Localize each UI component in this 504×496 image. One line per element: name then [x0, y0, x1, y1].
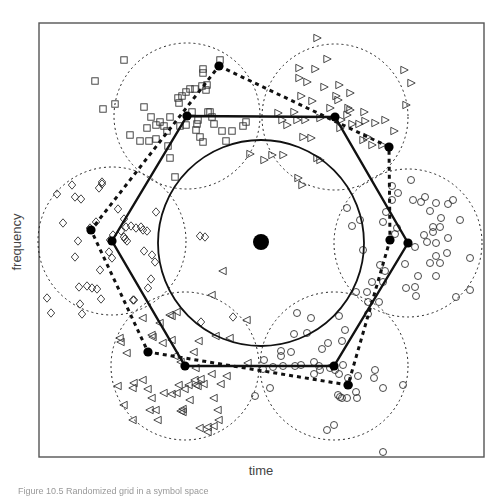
circle-marker [438, 215, 445, 222]
triangle-right-marker [369, 141, 376, 148]
circle-marker [415, 273, 422, 280]
square-marker [148, 114, 154, 120]
triangle-left-marker [217, 380, 224, 387]
triangle-left-marker [175, 381, 182, 388]
triangle-left-marker [173, 308, 180, 315]
circle-marker [288, 349, 295, 356]
diamond-marker [59, 219, 66, 227]
triangle-left-marker [204, 423, 211, 430]
origin-dot [253, 234, 269, 250]
triangle-right-marker [247, 150, 254, 157]
triangle-right-marker [361, 108, 368, 115]
square-marker [223, 138, 229, 144]
triangle-left-marker [214, 406, 221, 413]
triangle-right-marker [269, 151, 276, 158]
circle-marker [402, 261, 409, 268]
circle-marker [433, 240, 440, 247]
perturbed-vertex-dot [143, 347, 152, 356]
circle-marker [445, 235, 452, 242]
square-marker [141, 104, 147, 110]
circle-marker [364, 289, 371, 296]
triangle-right-marker [291, 108, 298, 115]
diamond-marker [97, 295, 104, 303]
triangle-left-marker [204, 428, 211, 435]
hexagon-vertex-dot [182, 111, 191, 120]
series-cluster-top-right [247, 34, 415, 188]
square-marker [127, 132, 133, 138]
diamond-marker [114, 205, 121, 213]
triangle-left-marker [154, 416, 161, 423]
circle-marker [422, 194, 429, 201]
circle-marker [355, 373, 362, 380]
triangle-left-marker [159, 339, 166, 346]
perturbed-vertex-dot [86, 225, 95, 234]
circle-marker [344, 205, 351, 212]
diamond-marker [147, 275, 154, 283]
square-marker [137, 138, 143, 144]
diamond-marker [229, 313, 236, 321]
circle-marker [412, 244, 419, 251]
circle-marker [380, 449, 387, 456]
circle-marker [340, 362, 347, 369]
series-cluster-top-left [92, 57, 249, 180]
figure-caption: Figure 10.5 Randomized grid in a symbol … [18, 486, 209, 496]
circle-marker [376, 299, 383, 306]
circle-marker [349, 223, 356, 230]
square-marker [144, 125, 150, 131]
series-cluster-left [43, 178, 203, 318]
square-marker [211, 121, 217, 127]
square-marker [193, 127, 199, 133]
circle-marker [418, 199, 425, 206]
square-marker [121, 57, 127, 63]
triangle-right-marker [349, 120, 356, 127]
triangle-left-marker [173, 389, 180, 396]
circle-marker [413, 293, 420, 300]
diamond-marker [96, 266, 103, 274]
circle-marker [369, 279, 376, 286]
circle-marker [339, 338, 346, 345]
triangle-left-marker [186, 396, 193, 403]
circle-marker [408, 177, 415, 184]
triangle-right-marker [304, 78, 311, 85]
circle-marker [403, 285, 410, 292]
circle-marker [467, 255, 474, 262]
triangle-left-marker [219, 267, 226, 274]
square-marker [167, 114, 173, 120]
circle-marker [450, 197, 457, 204]
triangle-right-marker [347, 89, 354, 96]
circle-marker [412, 284, 419, 291]
circle-marker [427, 208, 434, 215]
square-marker [200, 66, 206, 72]
triangle-left-marker [195, 337, 202, 344]
square-marker [100, 106, 106, 112]
square-marker [153, 136, 159, 142]
triangle-right-marker [372, 119, 379, 126]
diamond-marker [71, 253, 78, 261]
triangle-right-marker [327, 104, 334, 111]
circle-marker [433, 273, 440, 280]
diamond-marker [75, 283, 82, 291]
triangle-right-marker [335, 96, 342, 103]
circle-marker [325, 340, 332, 347]
perturbed-vertex-dot [343, 380, 352, 389]
triangle-right-marker [308, 134, 315, 141]
x-axis-label: time [249, 463, 274, 478]
diamond-marker [144, 284, 151, 292]
triangle-right-marker [314, 34, 321, 41]
triangle-left-marker [123, 349, 130, 356]
triangle-right-marker [336, 81, 343, 88]
hexagon-vertex-dot [329, 361, 338, 370]
triangle-left-marker [114, 382, 121, 389]
triangle-right-marker [296, 64, 303, 71]
circle-marker [311, 359, 318, 366]
perturbed-vertex-dot [385, 235, 394, 244]
square-marker [219, 128, 225, 134]
triangle-right-marker [401, 66, 408, 73]
series-stray-in-center [197, 233, 250, 326]
perturbed-vertex-dot [214, 61, 223, 70]
circle-marker [380, 219, 387, 226]
circle-marker [421, 232, 428, 239]
series-cluster-bottom-left [114, 308, 251, 435]
perturbed-polygon-outline [91, 66, 390, 385]
diamond-marker [74, 237, 81, 245]
